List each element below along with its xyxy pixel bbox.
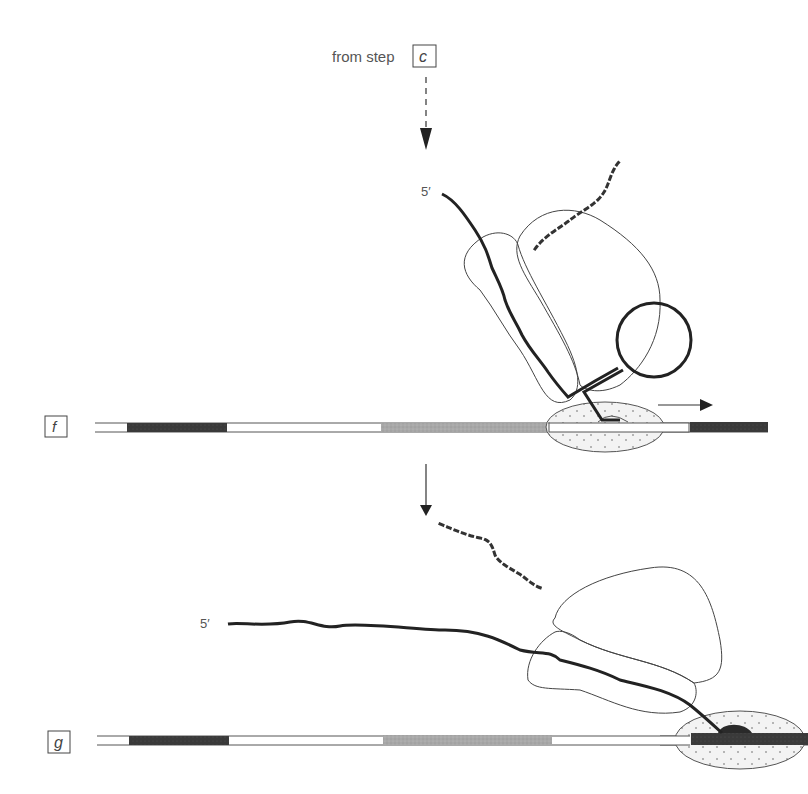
- dashed-down-arrow-icon: [420, 77, 432, 150]
- ribosome-small-subunit-f: [464, 233, 578, 403]
- step-g: g 5′: [48, 524, 808, 769]
- step-c-letter: c: [419, 48, 427, 65]
- five-prime-label-g: 5′: [200, 616, 210, 631]
- diagram-canvas: from step c f: [0, 0, 808, 794]
- ribosome-small-subunit-g: [528, 631, 697, 713]
- from-step-text: from step: [332, 48, 395, 65]
- from-step-header: from step c: [332, 45, 436, 67]
- rna-polymerase-f: [546, 402, 768, 452]
- nascent-peptide-g: [440, 524, 541, 588]
- dark-segment: [127, 423, 227, 432]
- down-arrow-icon: [420, 464, 432, 516]
- rna-polymerase-g: [660, 711, 808, 769]
- right-arrow-icon: [658, 399, 713, 411]
- step-f-label: f: [52, 418, 58, 435]
- ribosome-large-subunit-f: [517, 210, 660, 391]
- step-g-label: g: [54, 734, 63, 751]
- five-prime-label-f: 5′: [421, 184, 431, 199]
- mrna-strand-g: [228, 621, 722, 733]
- gray-segment: [383, 735, 552, 745]
- dark-segment: [129, 736, 229, 745]
- gray-segment: [381, 423, 549, 432]
- dark-segment-right: [691, 733, 808, 745]
- step-f: f 5′: [45, 160, 768, 452]
- nascent-peptide-f: [535, 160, 621, 249]
- dark-segment-right: [690, 422, 768, 432]
